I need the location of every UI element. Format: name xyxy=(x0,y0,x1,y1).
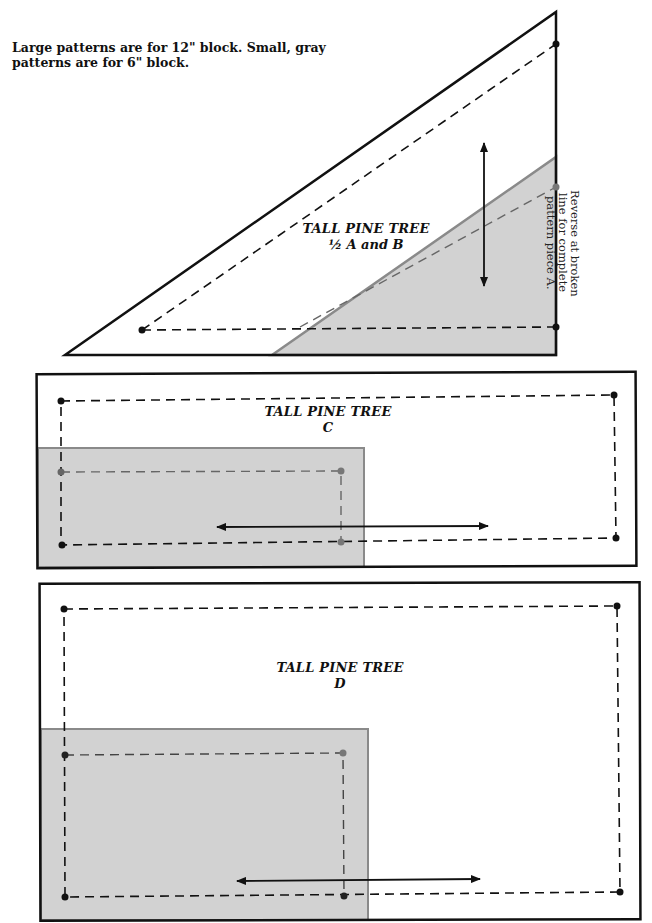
seam-dot-small xyxy=(338,468,345,475)
piece-ab-label: TALL PINE TREE ½ A and B xyxy=(296,221,436,253)
seam-dot xyxy=(613,535,620,542)
seam-dot xyxy=(59,542,66,549)
piece-d xyxy=(40,582,641,921)
grain-arrow-icon xyxy=(217,526,488,527)
piece-ab-title: TALL PINE TREE xyxy=(296,221,436,237)
seam-dot xyxy=(617,889,624,896)
small-piece-d-gray xyxy=(41,729,368,920)
seam-dot xyxy=(553,41,560,48)
piece-d-subtitle: D xyxy=(270,676,410,692)
piece-d-label: TALL PINE TREE D xyxy=(270,660,410,692)
seam-dot xyxy=(614,603,621,610)
seam-dot xyxy=(58,398,65,405)
seam-dot-small xyxy=(58,469,65,476)
seam-dot xyxy=(61,606,68,613)
piece-ab xyxy=(65,12,560,355)
piece-d-title: TALL PINE TREE xyxy=(270,660,410,676)
small-piece-c-gray xyxy=(38,448,364,567)
piece-c-subtitle: C xyxy=(258,420,398,436)
seam-dot xyxy=(62,894,69,901)
seam-dot-small xyxy=(341,893,348,900)
seam-dot-small xyxy=(338,539,345,546)
seam-dot xyxy=(553,324,560,331)
seam-dot-small xyxy=(62,752,69,759)
seam-dot xyxy=(139,327,146,334)
small-piece-ab-gray xyxy=(272,157,556,355)
reverse-instruction: Reverse at broken line for complete patt… xyxy=(515,178,581,308)
piece-c xyxy=(37,372,637,569)
seam-dot-small xyxy=(340,750,347,757)
pattern-sheet xyxy=(0,0,652,923)
piece-c-title: TALL PINE TREE xyxy=(258,404,398,420)
piece-ab-subtitle: ½ A and B xyxy=(296,237,436,253)
seam-dot xyxy=(611,392,618,399)
piece-c-label: TALL PINE TREE C xyxy=(258,404,398,436)
